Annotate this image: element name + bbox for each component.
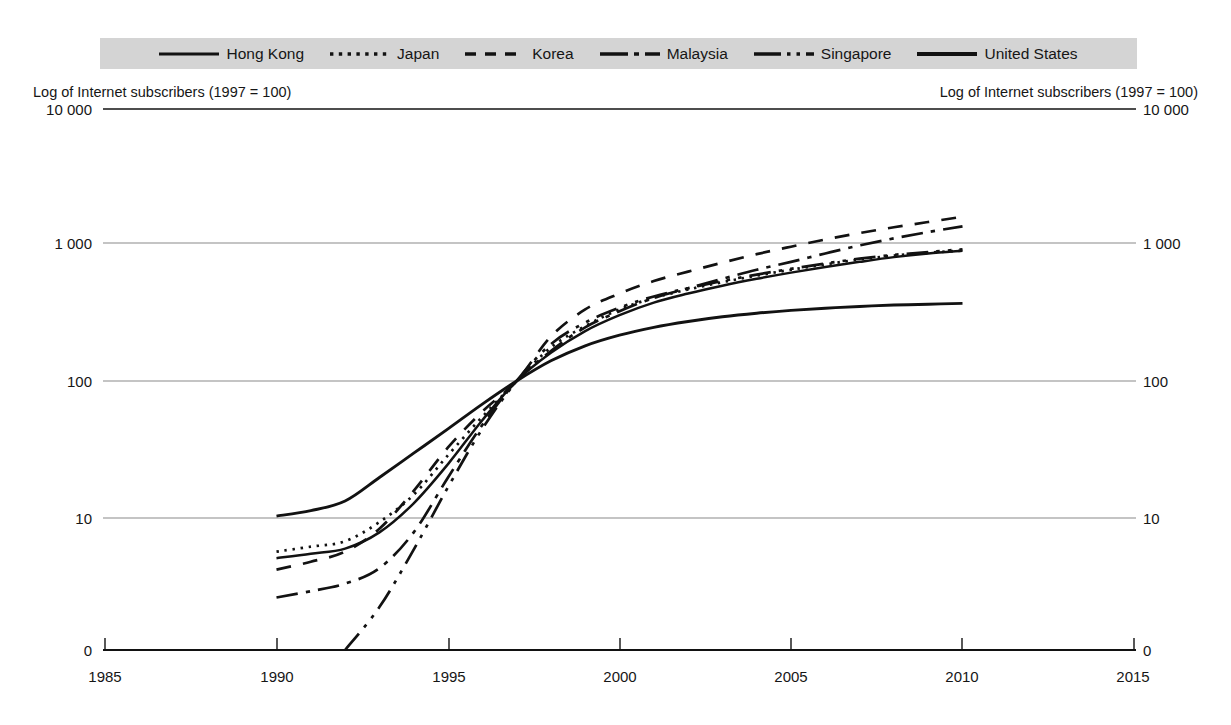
series-line-singapore [345,249,962,650]
x-axis [103,638,1136,650]
gridlines [103,109,1136,518]
series-line-hong-kong [277,251,963,559]
series-line-korea [277,217,963,570]
series-line-malaysia [277,226,963,597]
data-series-layer [277,217,963,650]
series-line-united-states [277,303,963,516]
chart-figure: Hong Kong Japan Korea Malaysia Singapore [0,0,1231,725]
series-line-japan [277,251,963,552]
plot-area [0,0,1231,725]
